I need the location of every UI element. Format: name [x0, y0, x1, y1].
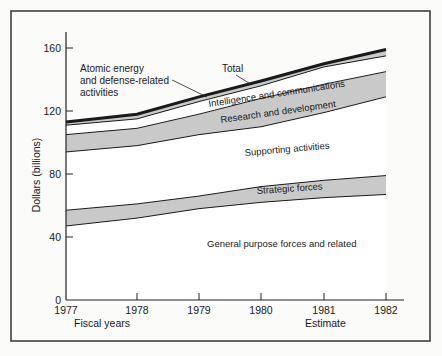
x-tick-label: 1977 — [54, 304, 78, 316]
x-tick-label: 1982 — [374, 304, 398, 316]
label-atomic-1: Atomic energy — [80, 63, 144, 74]
stacked-area-chart: 04080120160 197719781979198019811982 Dol… — [0, 0, 442, 356]
total-leader-line — [236, 75, 252, 85]
label-atomic-3: activities — [80, 87, 118, 98]
y-tick-label: 120 — [43, 105, 61, 117]
estimate-label: Estimate — [305, 317, 346, 329]
atomic-leader-line — [172, 80, 207, 97]
y-tick-label: 80 — [49, 168, 61, 180]
y-tick-label: 40 — [49, 231, 61, 243]
x-tick-label: 1980 — [249, 304, 273, 316]
x-tick-label: 1981 — [312, 304, 336, 316]
x-tick-label: 1978 — [125, 304, 149, 316]
x-axis-label: Fiscal years — [74, 317, 130, 329]
label-general: General purpose forces and related — [207, 238, 356, 249]
y-tick-label: 160 — [43, 42, 61, 54]
x-tick-label: 1979 — [187, 304, 211, 316]
label-total: Total — [222, 63, 243, 74]
y-axis-label: Dollars (billions) — [30, 138, 42, 213]
label-atomic-2: and defense-related — [80, 75, 169, 86]
